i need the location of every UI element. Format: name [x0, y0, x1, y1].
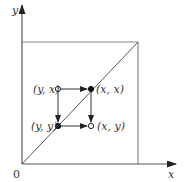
diagram-svg: y x 0 (y, x) (x, x) (y, y) (x, y) [0, 0, 186, 182]
point-yy-label: (y, y) [31, 120, 58, 133]
diagram-canvas: y x 0 (y, x) (x, x) (y, y) (x, y) [0, 0, 186, 182]
point-yx-label: (y, x) [33, 83, 60, 96]
point-xy-label: (x, y) [97, 120, 125, 133]
y-axis-label: y [11, 4, 19, 17]
x-axis-label: x [168, 168, 175, 181]
diagonal-line [22, 42, 138, 164]
point-xy-open [88, 123, 93, 128]
origin-label: 0 [13, 168, 20, 181]
point-xx-label: (x, x) [96, 83, 124, 96]
point-xx-filled [88, 86, 93, 91]
